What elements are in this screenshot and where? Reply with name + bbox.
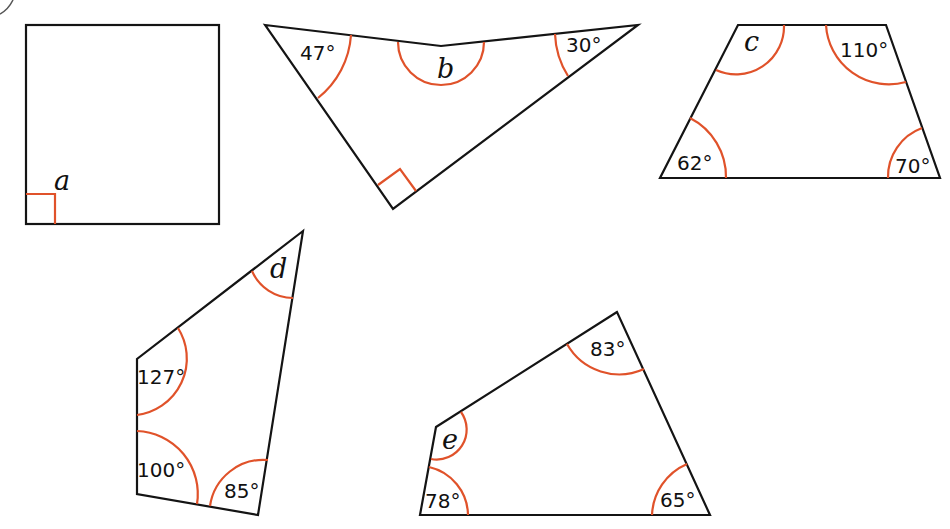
angles-diagram: a 47° b 30° c 110° 62° 70° d (0, 0, 950, 529)
angle-label-30: 30° (566, 33, 601, 57)
angle-label-70: 70° (895, 154, 930, 178)
angle-label-62: 62° (677, 151, 712, 175)
angle-label-110: 110° (840, 38, 888, 62)
shape-c-trapezium: c 110° 62° 70° (660, 25, 940, 178)
shape-b-arrowhead: 47° b 30° (265, 25, 638, 209)
quadrilateral-e-outline (420, 312, 710, 515)
shape-d-quadrilateral: d 127° 100° 85° (137, 231, 303, 515)
angle-label-c: c (744, 26, 759, 57)
right-angle-marker (378, 169, 416, 191)
angle-label-78: 78° (425, 489, 460, 513)
angle-label-127: 127° (137, 365, 185, 389)
angle-label-83: 83° (590, 337, 625, 361)
shape-e-quadrilateral: 83° e 78° 65° (420, 312, 710, 515)
angle-label-a: a (54, 165, 70, 196)
angle-label-b: b (437, 53, 454, 84)
angle-label-e: e (442, 424, 458, 455)
question-number-ring (0, 0, 13, 14)
angle-label-65: 65° (660, 488, 695, 512)
right-angle-marker (26, 194, 55, 224)
shape-a-square: a (26, 25, 219, 224)
angle-label-100: 100° (137, 458, 185, 482)
angle-label-85: 85° (224, 479, 259, 503)
angle-label-47: 47° (300, 41, 335, 65)
angle-label-d: d (270, 253, 287, 284)
